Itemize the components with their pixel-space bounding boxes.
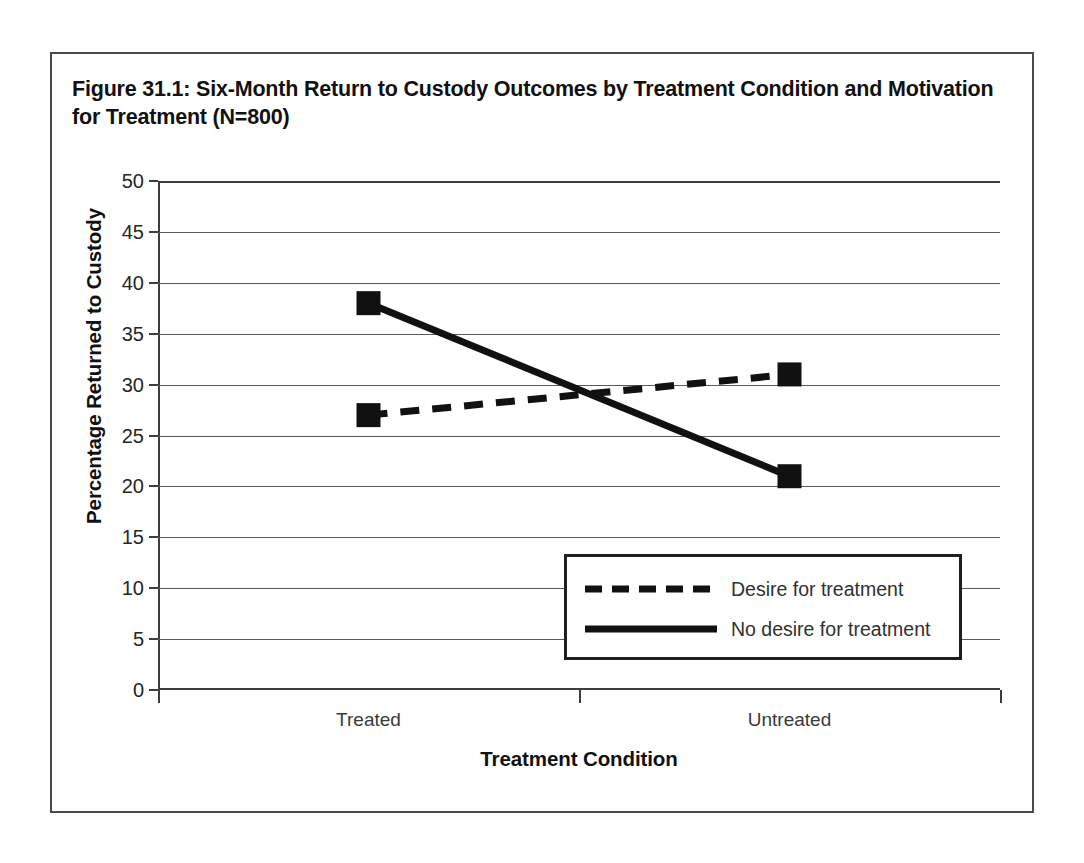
y-tick-label: 30 (122, 373, 144, 396)
y-tick-mark (149, 587, 158, 589)
y-tick-mark (149, 384, 158, 386)
legend-swatch-dashed-icon (583, 582, 719, 596)
x-tick-mark (1000, 690, 1002, 703)
x-tick-label-treated: Treated (336, 709, 401, 731)
legend-label-desire: Desire for treatment (731, 578, 903, 601)
legend: Desire for treatment No desire for treat… (564, 554, 962, 660)
y-tick-label: 50 (122, 170, 144, 193)
data-point-marker (357, 291, 381, 315)
y-tick-label: 15 (122, 526, 144, 549)
legend-entry-no-desire: No desire for treatment (567, 609, 959, 649)
y-tick-label: 20 (122, 475, 144, 498)
y-tick-label: 5 (133, 628, 144, 651)
y-tick-label: 0 (133, 679, 144, 702)
y-axis-title: Percentage Returned to Custody (82, 156, 106, 576)
series-line-1 (369, 303, 790, 476)
x-tick-mark (579, 690, 581, 703)
y-tick-label: 35 (122, 322, 144, 345)
x-tick-mark (158, 690, 160, 703)
y-tick-mark (149, 638, 158, 640)
y-tick-label: 25 (122, 424, 144, 447)
x-axis-title: Treatment Condition (158, 747, 1000, 771)
data-point-marker (357, 403, 381, 427)
y-tick-mark (149, 231, 158, 233)
x-tick-label-untreated: Untreated (748, 709, 831, 731)
y-tick-label: 10 (122, 577, 144, 600)
y-tick-label: 40 (122, 271, 144, 294)
data-point-marker (778, 464, 802, 488)
y-tick-mark (149, 689, 158, 691)
y-tick-mark (149, 536, 158, 538)
y-tick-mark (149, 485, 158, 487)
figure-frame: Figure 31.1: Six-Month Return to Custody… (50, 52, 1034, 813)
data-point-marker (778, 362, 802, 386)
legend-entry-desire: Desire for treatment (567, 569, 959, 609)
legend-label-no-desire: No desire for treatment (731, 618, 930, 641)
series-line-0 (369, 374, 790, 415)
y-tick-mark (149, 333, 158, 335)
chart-area: Percentage Returned to Custody 051015202… (52, 54, 1032, 811)
y-tick-mark (149, 435, 158, 437)
y-tick-label: 45 (122, 220, 144, 243)
y-tick-mark (149, 180, 158, 182)
legend-swatch-solid-icon (583, 622, 719, 636)
y-tick-mark (149, 282, 158, 284)
